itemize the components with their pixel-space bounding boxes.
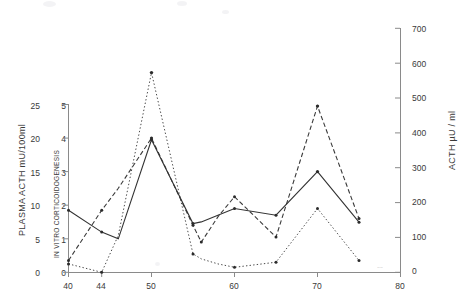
series-dashed-curve — [67, 104, 361, 262]
acth-corticoidogenesis-chart: PLASMA ACTH mU/100ml 25 20 15 10 5 0 IN … — [0, 0, 467, 299]
axis-spines — [68, 28, 401, 273]
plot-area: ~~ — [0, 0, 467, 299]
svg-text:~~: ~~ — [377, 264, 383, 270]
baseline-artifact: ~~ — [377, 264, 383, 270]
left-axis-ticks — [63, 105, 68, 273]
right-axis-ticks — [395, 28, 400, 272]
